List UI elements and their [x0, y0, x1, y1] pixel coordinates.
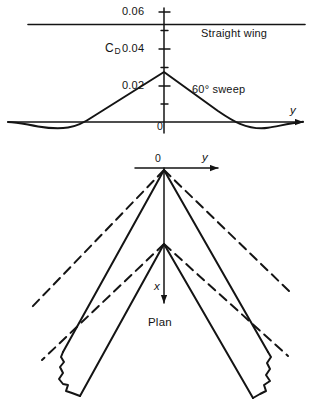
left-wingtip-edge — [59, 352, 80, 396]
top-chart-y-axis-label: CD — [105, 42, 121, 54]
planform-group — [32, 168, 290, 398]
figure-canvas — [0, 0, 323, 412]
figure-root: 0.06 0.04 0.02 CD 0 y Straight wing 60° … — [0, 0, 323, 412]
swept-trailing-edge-right — [164, 244, 253, 398]
reference-wing-trailing-edge-left — [42, 244, 164, 360]
reference-wing-leading-edge-left — [32, 170, 164, 307]
cd-main-symbol: C — [105, 41, 114, 55]
planform-y-axis-label: y — [202, 152, 208, 164]
top-chart-tick-label-0_04: 0.04 — [122, 43, 144, 54]
planform-origin-label: 0 — [155, 153, 161, 164]
planform-x-axis-label: x — [154, 281, 160, 293]
top-chart-origin-label: 0 — [157, 121, 163, 132]
top-chart-x-axis-label: y — [290, 105, 296, 117]
reference-wing-trailing-edge-right — [164, 244, 288, 356]
right-wingtip-edge — [253, 352, 271, 398]
reference-wing-leading-edge-right — [164, 170, 290, 292]
top-chart-tick-label-0_06: 0.06 — [122, 6, 144, 17]
planform-title: Plan — [148, 317, 172, 329]
top-chart-tick-label-0_02: 0.02 — [122, 80, 144, 91]
sweep-angle-annotation: 60° sweep — [192, 84, 245, 95]
sweep-drag-curve — [8, 72, 303, 128]
straight-wing-annotation: Straight wing — [201, 28, 267, 39]
cd-subscript: D — [114, 46, 121, 56]
